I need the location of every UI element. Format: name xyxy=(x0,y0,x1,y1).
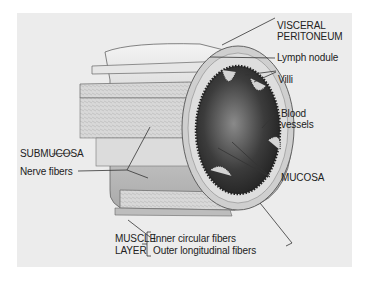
label-villi: Villi xyxy=(278,74,293,85)
submucosa-block xyxy=(96,138,196,166)
label-muscle-layer-1: MUSCLE xyxy=(115,233,156,244)
label-mucosa: MUCOSA xyxy=(281,172,324,183)
label-inner-circular-fibers: Inner circular fibers xyxy=(153,233,236,244)
muscle-block xyxy=(80,98,190,138)
label-blood-vessels-2: vessels xyxy=(281,119,314,130)
label-visceral-peritoneum-1: VISCERAL xyxy=(277,20,326,31)
label-nerve-fibers: Nerve fibers xyxy=(20,166,73,177)
label-submucosa: SUBMUCOSA xyxy=(20,148,84,159)
label-blood-vessels-1: Blood xyxy=(281,108,306,119)
label-muscle-layer-2: LAYER xyxy=(115,245,147,256)
label-outer-longitudinal-fibers: Outer longitudinal fibers xyxy=(153,245,256,256)
label-visceral-peritoneum-2: PERITONEUM xyxy=(277,31,343,42)
label-lymph-nodule: Lymph nodule xyxy=(277,52,338,63)
